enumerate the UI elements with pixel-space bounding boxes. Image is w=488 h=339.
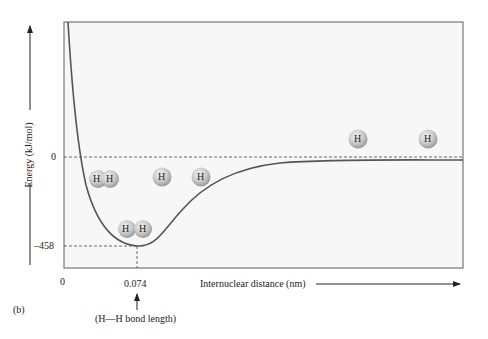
- atom-label: H: [158, 171, 165, 182]
- atom-label: H: [93, 173, 100, 184]
- x-axis-label: Internuclear distance (nm): [200, 278, 306, 289]
- atom-label: H: [139, 223, 146, 234]
- x-tick-bond-length: 0.074: [124, 278, 147, 289]
- y-axis-label: Energy (kJ/mol): [18, 95, 38, 215]
- atom-label: H: [424, 133, 431, 144]
- panel-label: (b): [13, 304, 25, 315]
- y-tick-zero: 0: [51, 151, 56, 162]
- y-tick-min: –458: [34, 240, 54, 251]
- atom-label: H: [122, 223, 129, 234]
- atom-label: H: [106, 173, 113, 184]
- atom-label: H: [197, 171, 204, 182]
- y-axis-label-text: Energy (kJ/mol): [23, 122, 34, 187]
- x-tick-zero: 0: [60, 276, 65, 287]
- atom-label: H: [354, 133, 361, 144]
- bond-length-note: (H—H bond length): [95, 313, 176, 324]
